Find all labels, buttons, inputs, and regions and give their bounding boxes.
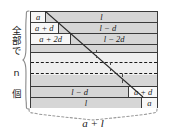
horizontal-brace-label: a + l <box>28 117 158 129</box>
arithmetic-series-figure: 全部で n 個 a + l a l a + d l − d <box>0 0 171 133</box>
cell-right: a + d <box>129 87 157 97</box>
cell-left: l − d <box>31 87 129 97</box>
vertical-brace-icon <box>22 10 30 110</box>
ellipsis-band <box>31 53 157 64</box>
cell-left: l <box>31 98 142 108</box>
table-row: a l <box>31 12 157 23</box>
band-row <box>31 75 157 87</box>
table-row: l a <box>31 98 157 108</box>
cell-label: l <box>100 12 102 22</box>
ellipsis-band <box>31 64 157 75</box>
staircase-grid: a l a + d l − d a + 2d l − 2d <box>30 11 158 108</box>
cell-label: a <box>36 12 40 22</box>
cell-label: a <box>147 98 151 108</box>
cell-right: l <box>46 12 157 22</box>
cell-left: a <box>31 12 46 22</box>
cell-label: a + d <box>35 23 54 33</box>
table-row: l − d a + d <box>31 87 157 98</box>
cell-left: a + 2d <box>31 34 71 44</box>
table-row: a + d l − d <box>31 23 157 34</box>
cell-right: l − d <box>59 23 157 33</box>
cell-right: l − 2d <box>71 34 157 44</box>
cell-label: l − 2d <box>104 34 125 44</box>
vertical-brace-label: 全部で n 個 <box>6 26 21 92</box>
cell-left: a + d <box>31 23 59 33</box>
dashed-rule <box>31 62 157 63</box>
cell-label: l − d <box>71 87 88 97</box>
tick-dash <box>96 50 97 58</box>
tick-dash <box>122 74 123 83</box>
cell-label: a + 2d <box>39 34 62 44</box>
dashed-rule <box>31 73 157 74</box>
cell-label: l <box>85 98 87 108</box>
band-row <box>31 45 157 53</box>
cell-label: a + d <box>134 87 153 97</box>
tick-dash <box>110 62 111 71</box>
cell-label: l − d <box>100 23 117 33</box>
table-row: a + 2d l − 2d <box>31 34 157 45</box>
cell-right: a <box>142 98 157 108</box>
